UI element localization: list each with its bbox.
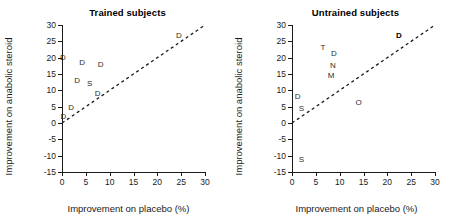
y-axis-tick [58,25,62,26]
data-point-label: S [87,80,92,88]
x-axis-tick [364,172,365,176]
y-axis-tick [58,74,62,75]
x-axis-title: Improvement on placebo (%) [230,203,459,214]
x-axis-tick-label: 20 [153,178,162,187]
x-axis-title: Improvement on placebo (%) [0,203,229,214]
x-axis-tick-label: 10 [335,178,344,187]
y-axis-tick-label: -15 [44,168,56,177]
y-axis-title: Improvement on anabolic steroid [232,0,246,221]
x-axis-tick-label: 0 [60,178,65,187]
x-axis-tick-label: 5 [83,178,88,187]
x-axis-tick [435,172,436,176]
y-axis-tick-label: 20 [277,53,286,62]
y-axis-tick-label: 15 [277,70,286,79]
y-axis-tick-label: -15 [274,168,286,177]
data-point-label: D [95,90,101,98]
y-axis-tick-label: 10 [47,86,56,95]
x-axis-tick [181,172,182,176]
y-axis-tick [288,139,292,140]
y-axis-tick-label: 0 [51,119,56,128]
plot-area: DDDDSDDDD 302520151050-5-10-150510152025… [62,25,205,172]
data-point-label: N [330,62,336,70]
y-axis-tick-label: 15 [47,70,56,79]
data-point-label: D [295,93,301,101]
y-axis-tick-label: -10 [44,151,56,160]
x-axis-tick [110,172,111,176]
x-axis-tick-label: 15 [359,178,368,187]
figure-scatter-panels: Trained subjects Improvement on anabolic… [0,0,459,221]
y-axis-tick [58,139,62,140]
y-axis-tick-label: 25 [277,37,286,46]
panel-title: Untrained subjects [230,7,459,18]
y-axis-tick [288,74,292,75]
x-axis-tick-label: 20 [383,178,392,187]
data-point-label: D [98,61,104,69]
data-point-label: T [321,44,326,52]
plot-area: TDNMODSSD 302520151050-5-10-150510152025… [292,25,435,172]
y-axis-tick-label: 30 [47,21,56,30]
y-axis-tick [288,58,292,59]
y-axis-tick [58,41,62,42]
x-axis-tick-label: 25 [176,178,185,187]
y-axis-tick-label: 10 [277,86,286,95]
x-axis-tick [316,172,317,176]
identity-line [292,25,435,172]
y-axis-title-text: Improvement on anabolic steroid [234,38,245,176]
x-axis-tick-label: 25 [406,178,415,187]
x-axis-tick [205,172,206,176]
y-axis-tick-label: 0 [281,119,286,128]
data-point-label: M [328,72,335,80]
x-axis-tick [62,172,63,176]
y-axis-tick [288,25,292,26]
x-axis-tick-label: 0 [290,178,295,187]
x-axis-tick-label: 30 [200,178,209,187]
data-point-label: S [299,105,304,113]
y-axis-tick [288,156,292,157]
y-axis-tick [58,90,62,91]
y-axis-tick-label: -5 [48,135,56,144]
x-axis-tick [387,172,388,176]
y-axis-tick-label: -10 [274,151,286,160]
y-axis-tick [58,107,62,108]
x-axis-tick-label: 10 [105,178,114,187]
y-axis-tick-label: 20 [47,53,56,62]
panel-title: Trained subjects [0,7,229,18]
panel-trained-subjects: Trained subjects Improvement on anabolic… [0,0,229,221]
data-point-label: S [299,156,304,164]
y-axis-tick [58,58,62,59]
data-point-label: D [331,50,337,58]
x-axis-tick [411,172,412,176]
data-point-label: O [356,99,362,107]
x-axis-tick-label: 15 [129,178,138,187]
y-axis-tick [288,107,292,108]
y-axis-tick-label: -5 [278,135,286,144]
y-axis-title-text: Improvement on anabolic steroid [4,38,15,176]
x-axis-tick [340,172,341,176]
panel-untrained-subjects: Untrained subjects Improvement on anabol… [230,0,459,221]
x-axis-tick [134,172,135,176]
y-axis-tick [288,90,292,91]
x-axis-tick-label: 5 [313,178,318,187]
data-point-label: D [68,104,74,112]
y-axis-tick-label: 30 [277,21,286,30]
data-point-label: D [176,32,182,40]
y-axis-tick-label: 25 [47,37,56,46]
y-axis-tick [58,156,62,157]
x-axis-tick [86,172,87,176]
y-axis-tick-label: 5 [51,102,56,111]
y-axis-tick [288,41,292,42]
y-axis-tick [288,123,292,124]
y-axis-tick [58,123,62,124]
data-point-label: D [61,113,67,121]
x-axis-tick [292,172,293,176]
identity-line [62,25,205,172]
data-point-label: D [79,59,85,67]
x-axis-tick [157,172,158,176]
data-point-label: D [396,32,402,40]
y-axis-title: Improvement on anabolic steroid [2,0,16,221]
y-axis-tick-label: 5 [281,102,286,111]
data-point-label: D [74,77,80,85]
x-axis-tick-label: 30 [430,178,439,187]
